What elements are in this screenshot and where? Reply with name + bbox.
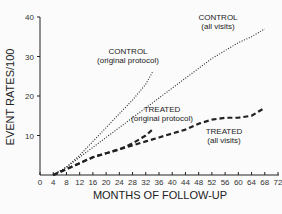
x-tick-label: 36 — [155, 178, 164, 187]
annotation-treated-original: TREATED — [144, 105, 181, 114]
x-tick-label: 56 — [221, 178, 230, 187]
x-tick-label: 8 — [64, 178, 69, 187]
y-tick-label: 20 — [25, 92, 34, 101]
x-tick-label: 60 — [234, 178, 243, 187]
x-tick-label: 52 — [207, 178, 216, 187]
series-line-0 — [53, 72, 152, 175]
x-tick-label: 4 — [51, 178, 56, 187]
x-tick-label: 64 — [247, 178, 256, 187]
axes: 10203040 0481216202428323640444852566064… — [25, 13, 282, 187]
x-tick-label: 20 — [102, 178, 111, 187]
chart: 10203040 0481216202428323640444852566064… — [0, 0, 282, 214]
series-lines — [53, 29, 265, 175]
x-tick-label: 44 — [181, 178, 190, 187]
annotation-treated-all: TREATED — [206, 127, 243, 136]
annotation-control-all-sub: (all visits) — [201, 22, 235, 31]
x-axis-title: MONTHS OF FOLLOW-UP — [93, 189, 227, 201]
y-ticks: 10203040 — [25, 13, 40, 141]
annotation-treated-all-sub: (all visits) — [207, 136, 241, 145]
annotation-control-original-sub: (original protocol) — [97, 56, 159, 65]
series-line-1 — [53, 29, 265, 175]
annotation-control-original: CONTROL — [108, 47, 148, 56]
x-tick-label: 16 — [88, 178, 97, 187]
x-ticks: 04812162024283236404448525660646872 — [38, 172, 282, 187]
y-tick-label: 30 — [25, 53, 34, 62]
x-tick-label: 12 — [75, 178, 84, 187]
x-tick-label: 24 — [115, 178, 124, 187]
x-tick-label: 68 — [260, 178, 269, 187]
x-tick-label: 32 — [141, 178, 150, 187]
x-tick-label: 48 — [194, 178, 203, 187]
x-tick-label: 40 — [168, 178, 177, 187]
y-tick-label: 10 — [25, 132, 34, 141]
x-tick-label: 0 — [38, 178, 43, 187]
x-tick-label: 28 — [128, 178, 137, 187]
annotation-control-all: CONTROL — [198, 13, 238, 22]
y-axis-title: EVENT RATES/100 — [4, 49, 16, 146]
y-tick-label: 40 — [25, 13, 34, 22]
x-tick-label: 72 — [274, 178, 282, 187]
annotation-treated-original-sub: (original protocol) — [131, 114, 193, 123]
